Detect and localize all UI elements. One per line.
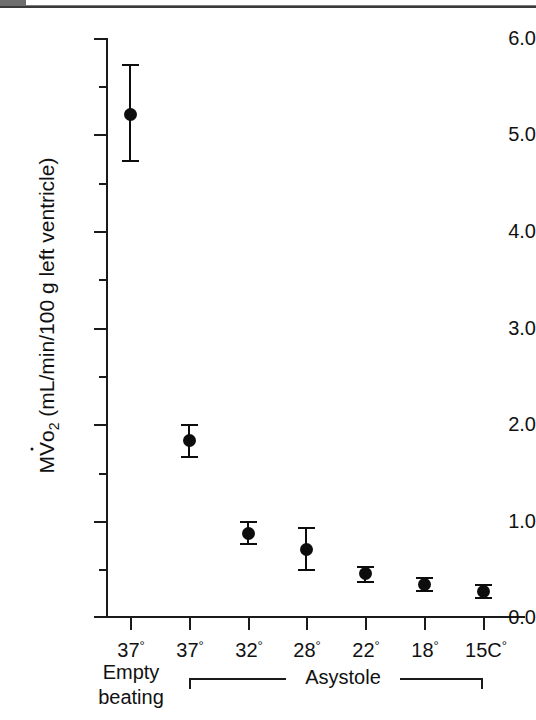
data-point-3	[300, 543, 313, 556]
y-tick-label-3: 3.0	[450, 318, 536, 338]
group-label-asystole: Asystole	[286, 666, 400, 689]
y-tick-label-2: 2.0	[450, 414, 536, 434]
y-tick-3	[94, 328, 107, 330]
y-tick-label-4: 4.0	[450, 221, 536, 241]
x-tick-6	[483, 618, 485, 630]
x-tick-label-6-value: 15C	[465, 639, 502, 661]
group-label-empty-beating-line1: Empty	[71, 660, 191, 685]
data-point-5	[418, 578, 431, 591]
y-tick-1	[94, 521, 107, 523]
y-axis-title: MVo2 (mL/min/100 g left ventricle)	[35, 56, 66, 576]
x-tick-label-1-value: 37	[176, 639, 198, 661]
x-tick-1	[189, 618, 191, 630]
degree-icon: °	[140, 638, 145, 653]
x-tick-0	[130, 618, 132, 630]
error-cap-upper-2	[240, 521, 257, 523]
degree-icon: °	[434, 638, 439, 653]
degree-icon: °	[375, 638, 380, 653]
y-tick-label-0: 0.0	[450, 607, 536, 627]
y-tick-5	[94, 134, 107, 136]
data-point-0	[124, 108, 137, 121]
data-point-1	[183, 434, 196, 447]
y-tick-minor-0-5	[99, 569, 107, 571]
data-point-2	[242, 527, 255, 540]
x-tick-3	[306, 618, 308, 630]
y-axis-title-o: o	[35, 430, 58, 442]
y-axis-title-units: (mL/min/100 g left ventricle)	[35, 158, 58, 423]
x-tick-5	[424, 618, 426, 630]
y-tick-4	[94, 231, 107, 233]
error-cap-lower-4	[357, 581, 374, 583]
degree-icon: °	[258, 638, 263, 653]
y-tick-6	[94, 38, 107, 40]
y-tick-minor-1-5	[99, 473, 107, 475]
x-tick-4	[365, 618, 367, 630]
y-tick-2	[94, 424, 107, 426]
error-cap-upper-0	[122, 64, 139, 66]
group-label-empty-beating-line2: beating	[71, 685, 191, 710]
degree-icon: °	[316, 638, 321, 653]
x-tick-label-5-value: 18	[411, 639, 433, 661]
bracket-bar-left	[189, 678, 297, 680]
y-tick-minor-5-5	[99, 86, 107, 88]
degree-icon: °	[502, 638, 507, 653]
error-cap-upper-3	[298, 527, 315, 529]
group-bracket-asystole: Asystole	[189, 678, 483, 692]
x-tick-label-2-value: 32	[235, 639, 257, 661]
data-point-6	[477, 585, 490, 598]
y-tick-0	[94, 616, 107, 618]
x-tick-label-0-value: 37	[117, 639, 139, 661]
y-tick-minor-4-5	[99, 183, 107, 185]
error-cap-lower-2	[240, 543, 257, 545]
y-tick-minor-3-5	[99, 279, 107, 281]
x-tick-label-3-value: 28	[293, 639, 315, 661]
y-tick-label-1: 1.0	[450, 511, 536, 531]
x-tick-label-4-value: 22	[352, 639, 374, 661]
error-cap-upper-1	[181, 424, 198, 426]
group-label-empty-beating: Empty beating	[71, 660, 191, 710]
y-tick-minor-2-5	[99, 376, 107, 378]
y-axis-title-prefix: M	[35, 456, 58, 474]
error-cap-lower-3	[298, 569, 315, 571]
error-cap-lower-0	[122, 160, 139, 162]
v-dot-icon: V	[35, 442, 59, 456]
y-tick-label-5: 5.0	[450, 124, 536, 144]
error-cap-lower-1	[181, 456, 198, 458]
x-tick-2	[248, 618, 250, 630]
x-tick-label-6: 15C°	[446, 634, 526, 662]
y-tick-label-6: 6.0	[450, 28, 536, 48]
chart-figure: MVo2 (mL/min/100 g left ventricle) 6.0 5…	[0, 0, 536, 720]
data-point-4	[359, 567, 372, 580]
degree-icon: °	[199, 638, 204, 653]
bracket-end-right	[481, 678, 483, 689]
y-axis-title-subscript: 2	[46, 422, 62, 430]
